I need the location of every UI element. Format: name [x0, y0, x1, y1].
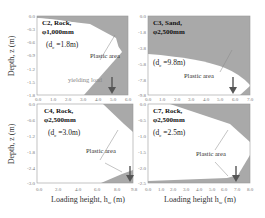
- svg-text:5.0: 5.0: [110, 97, 117, 102]
- svg-text:4.0: 4.0: [203, 97, 210, 102]
- svg-text:5.0: 5.0: [217, 97, 224, 102]
- svg-text:0.0: 0.0: [29, 14, 36, 19]
- dc-label: (dc =2.5m): [153, 128, 186, 138]
- x-axis-ticks: 0.0 1.0 2.0 3.0 4.0 5.0 6.0 7.0: [145, 97, 254, 102]
- plastic-area-label: Plastic area: [86, 147, 116, 154]
- dc-label: (dc =1.8m): [46, 40, 79, 50]
- svg-text:-5.8: -5.8: [138, 62, 146, 67]
- svg-text:-0.6: -0.6: [27, 40, 35, 45]
- panel-subtitle: φ2,500mm: [153, 116, 185, 124]
- y-axis-ticks: 0.0 -0.6 -1.2 -1.8 -2.4 -3.0: [27, 102, 35, 186]
- panel-subtitle: φ1,000mm: [42, 28, 74, 36]
- svg-text:-3.0: -3.0: [27, 181, 35, 186]
- y-axis-label: Depth, z (m): [7, 35, 16, 76]
- svg-text:-1.8: -1.8: [138, 30, 146, 35]
- svg-text:0.0: 0.0: [29, 102, 36, 107]
- svg-text:-1.5: -1.5: [138, 150, 146, 155]
- svg-text:8.0: 8.0: [247, 187, 254, 192]
- panel-c2: C2, Rock, φ1,000mm (dc =1.8m) Plastic ar…: [7, 14, 132, 102]
- svg-text:3.0: 3.0: [188, 97, 195, 102]
- dc-label: (dc =9.8m): [153, 58, 186, 68]
- svg-text:-0.5: -0.5: [138, 118, 146, 123]
- plastic-area-label: Plastic area: [196, 150, 226, 157]
- panel-title: C3, Sand,: [153, 19, 182, 27]
- y-axis-label: Depth, z (m): [7, 123, 16, 164]
- panel-subtitle: φ2,500mm: [44, 116, 76, 124]
- svg-text:-0.6: -0.6: [27, 118, 35, 123]
- svg-text:4.0: 4.0: [95, 97, 102, 102]
- x-axis-label: Loading height, hw (m): [51, 195, 125, 205]
- svg-text:1.0: 1.0: [159, 97, 166, 102]
- svg-text:8.0: 8.0: [114, 187, 121, 192]
- svg-text:2.0: 2.0: [55, 187, 62, 192]
- svg-text:5.0: 5.0: [209, 187, 216, 192]
- svg-text:3.0: 3.0: [80, 97, 87, 102]
- svg-text:2.0: 2.0: [65, 97, 72, 102]
- dc-label: (dc =3.0m): [48, 128, 81, 138]
- yielding-load-label: yielding load: [68, 76, 103, 83]
- svg-text:6.0: 6.0: [221, 187, 228, 192]
- svg-text:-1.5: -1.5: [27, 80, 35, 85]
- svg-text:1.0: 1.0: [50, 97, 57, 102]
- svg-text:3.0: 3.0: [183, 187, 190, 192]
- y-axis-ticks: 0.0 -0.3 -0.6 -0.9 -1.2 -1.5 -1.8: [27, 14, 35, 98]
- svg-text:-2.4: -2.4: [27, 166, 35, 171]
- svg-text:6.0: 6.0: [125, 97, 132, 102]
- y-axis-ticks: 0.0 -1.8 -3.8 -5.8 -7.8 -9.8: [138, 14, 146, 98]
- svg-text:-1.8: -1.8: [27, 150, 35, 155]
- panel-c3: C3, Sand, φ2,500mm (dc =9.8m) Plastic ar…: [138, 14, 254, 102]
- svg-text:4.0: 4.0: [196, 187, 203, 192]
- svg-text:9.8: 9.8: [131, 187, 138, 192]
- panel-title: C7, Rock,: [153, 107, 183, 115]
- svg-text:0.0: 0.0: [35, 97, 42, 102]
- panel-c7: C7, Rock, φ2,500mm (dc =2.5m) Plastic ar…: [138, 102, 254, 205]
- plastic-area-label: Plastic area: [90, 52, 120, 59]
- svg-text:2.0: 2.0: [174, 97, 181, 102]
- svg-text:6.0: 6.0: [232, 97, 239, 102]
- svg-text:-0.9: -0.9: [27, 53, 35, 58]
- panel-title: C4, Rock,: [44, 107, 74, 115]
- svg-text:0.0: 0.0: [140, 102, 147, 107]
- svg-text:-1.2: -1.2: [27, 134, 35, 139]
- figure-canvas: C2, Rock, φ1,000mm (dc =1.8m) Plastic ar…: [0, 0, 265, 218]
- svg-text:0.0: 0.0: [145, 187, 152, 192]
- svg-text:0.0: 0.0: [36, 187, 43, 192]
- svg-text:-1.0: -1.0: [138, 134, 146, 139]
- svg-text:2.0: 2.0: [170, 187, 177, 192]
- svg-text:4.0: 4.0: [75, 187, 82, 192]
- panel-title: C2, Rock,: [42, 19, 72, 27]
- svg-text:-1.2: -1.2: [27, 67, 35, 72]
- svg-text:6.0: 6.0: [94, 187, 101, 192]
- x-axis-ticks: 0.0 2.0 4.0 6.0 8.0 9.8: [36, 187, 138, 192]
- svg-text:1.0: 1.0: [158, 187, 165, 192]
- panel-subtitle: φ2,500mm: [153, 28, 185, 36]
- svg-text:7.0: 7.0: [247, 97, 254, 102]
- svg-text:-0.3: -0.3: [27, 27, 35, 32]
- svg-text:-3.8: -3.8: [138, 46, 146, 51]
- x-axis-ticks: 0.0 1.0 2.0 3.0 4.0 5.0 6.0 7.0 8.0: [145, 187, 254, 192]
- x-axis-ticks: 0.0 1.0 2.0 3.0 4.0 5.0 6.0: [35, 97, 132, 102]
- svg-text:7.0: 7.0: [234, 187, 241, 192]
- svg-text:0.0: 0.0: [140, 14, 147, 19]
- panel-c4: C4, Rock, φ2,500mm (dc =3.0m) Plastic ar…: [7, 102, 138, 205]
- y-axis-ticks: 0.0 -0.5 -1.0 -1.5 -2.0 -2.5: [138, 102, 146, 186]
- svg-text:-2.0: -2.0: [138, 166, 146, 171]
- plastic-area-label: Plastic area: [184, 72, 214, 79]
- x-axis-label: Loading height hw (m): [164, 195, 236, 205]
- svg-text:-7.8: -7.8: [138, 78, 146, 83]
- svg-text:-2.5: -2.5: [138, 181, 146, 186]
